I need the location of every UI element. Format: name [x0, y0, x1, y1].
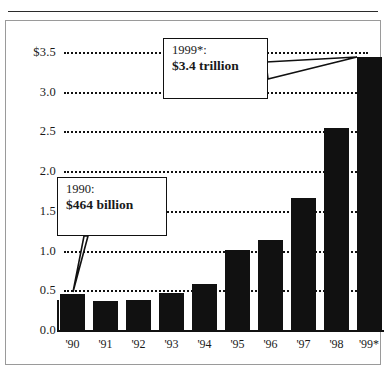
- callout-1990-line1: 1990:: [66, 182, 159, 197]
- callout-1999: 1999*: $3.4 trillion: [163, 38, 268, 99]
- callout-1999-line2: $3.4 trillion: [172, 58, 260, 74]
- callout-1990-line2: $464 billion: [66, 197, 159, 213]
- callout-1990: 1990: $464 billion: [57, 177, 167, 236]
- chart-figure: $3.5 3.0 2.5 2.0 1.5 1.0 0.5 0.0 '90 '91…: [0, 0, 386, 371]
- plot-area: $3.5 3.0 2.5 2.0 1.5 1.0 0.5 0.0 '90 '91…: [0, 0, 386, 371]
- callout-1999-line1: 1999*:: [172, 43, 260, 58]
